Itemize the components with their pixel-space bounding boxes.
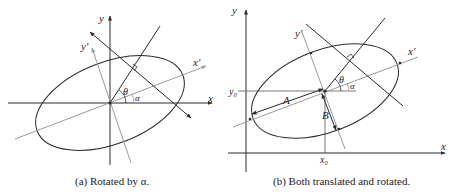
vertex-point bbox=[249, 118, 252, 121]
x-prime-label: x′ bbox=[192, 56, 201, 68]
alpha-arc bbox=[132, 94, 134, 103]
center-point bbox=[323, 89, 326, 92]
panel-b: y x y′ x′ θ α A B y₀ x₀ (b) Both transla… bbox=[228, 4, 446, 188]
x-prime-label: x′ bbox=[407, 45, 416, 57]
alpha-arc bbox=[347, 83, 349, 91]
covertex-point bbox=[310, 52, 313, 55]
origin-point bbox=[108, 101, 111, 104]
theta-ray bbox=[110, 26, 160, 103]
x-label: x bbox=[440, 140, 446, 152]
alpha-label: α bbox=[350, 81, 355, 91]
theta-label: θ bbox=[123, 86, 128, 97]
alpha-label: α bbox=[135, 93, 140, 103]
y-label: y bbox=[98, 12, 104, 24]
y-prime-label: y′ bbox=[294, 27, 303, 39]
ellipse-diagram: y x y′ x′ θ α (a) Rotated by α. y x y′ x… bbox=[0, 0, 454, 193]
A-label: A bbox=[282, 94, 290, 106]
theta-ray bbox=[325, 18, 385, 91]
x0-label: x₀ bbox=[319, 154, 328, 165]
theta-label: θ bbox=[339, 74, 344, 85]
panel-a: y x y′ x′ θ α (a) Rotated by α. bbox=[8, 12, 213, 188]
B-label: B bbox=[322, 109, 329, 121]
y-prime-label: y′ bbox=[80, 40, 89, 52]
y-label: y bbox=[231, 4, 237, 16]
covertex-point bbox=[338, 128, 341, 131]
caption-a: (a) Rotated by α. bbox=[75, 175, 149, 188]
x-label: x bbox=[207, 92, 213, 104]
vertex-point bbox=[399, 62, 402, 65]
y0-label: y₀ bbox=[228, 86, 237, 97]
caption-b: (b) Both translated and rotated. bbox=[273, 175, 410, 188]
tangent-line bbox=[90, 32, 191, 118]
